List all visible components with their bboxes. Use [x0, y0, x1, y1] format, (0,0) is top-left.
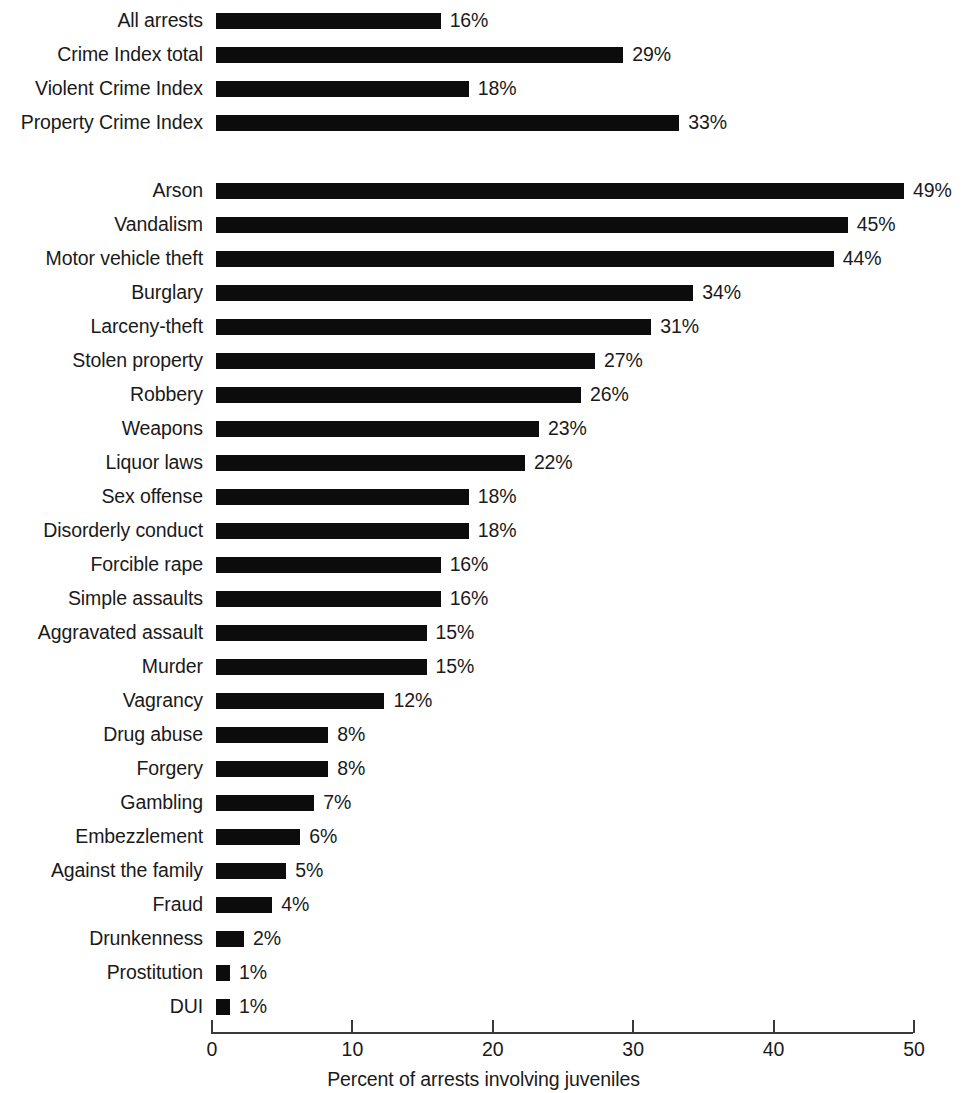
bar-row: Weapons23%: [0, 417, 967, 451]
bar-row: Crime Index total29%: [0, 43, 967, 77]
category-label: Simple assaults: [0, 587, 203, 609]
bar: [216, 115, 679, 131]
bar-row: Vandalism45%: [0, 213, 967, 247]
bar-row: Vagrancy12%: [0, 689, 967, 723]
axis-tick-label: 50: [884, 1038, 944, 1060]
axis-tick: [351, 1020, 353, 1033]
bar: [216, 795, 314, 811]
bar-value-label: 2%: [253, 927, 281, 949]
bar-value-label: 45%: [857, 213, 896, 235]
x-axis: 01020304050 Percent of arrests involving…: [0, 1018, 967, 1093]
axis-tick-label: 20: [463, 1038, 523, 1060]
axis-tick: [632, 1020, 634, 1033]
bar: [216, 523, 469, 539]
category-label: Burglary: [0, 281, 203, 303]
category-label: Property Crime Index: [0, 111, 203, 133]
bar-row: Disorderly conduct18%: [0, 519, 967, 553]
category-label: Stolen property: [0, 349, 203, 371]
bar-row: Burglary34%: [0, 281, 967, 315]
bar: [216, 183, 904, 199]
bar-row: Robbery26%: [0, 383, 967, 417]
bar-row: Forcible rape16%: [0, 553, 967, 587]
bar: [216, 931, 244, 947]
category-label: Embezzlement: [0, 825, 203, 847]
category-label: Disorderly conduct: [0, 519, 203, 541]
bar-value-label: 6%: [309, 825, 337, 847]
category-label: Murder: [0, 655, 203, 677]
axis-tick-label: 10: [322, 1038, 382, 1060]
bar-value-label: 44%: [843, 247, 882, 269]
category-label: Gambling: [0, 791, 203, 813]
bar-row: Violent Crime Index18%: [0, 77, 967, 111]
category-label: Larceny-theft: [0, 315, 203, 337]
bar: [216, 999, 230, 1015]
bar-value-label: 5%: [295, 859, 323, 881]
bar-row: Against the family5%: [0, 859, 967, 893]
axis-tick-label: 0: [182, 1038, 242, 1060]
bar: [216, 625, 427, 641]
bar: [216, 863, 286, 879]
category-label: Sex offense: [0, 485, 203, 507]
bar-row: Motor vehicle theft44%: [0, 247, 967, 281]
bar: [216, 217, 848, 233]
category-label: Crime Index total: [0, 43, 203, 65]
bar-value-label: 15%: [436, 655, 475, 677]
bar-value-label: 18%: [478, 77, 517, 99]
bar-value-label: 1%: [239, 961, 267, 983]
bar-row: Gambling7%: [0, 791, 967, 825]
bar: [216, 251, 834, 267]
bar: [216, 693, 384, 709]
category-label: Vagrancy: [0, 689, 203, 711]
bar-row: Embezzlement6%: [0, 825, 967, 859]
category-label: Motor vehicle theft: [0, 247, 203, 269]
bar: [216, 761, 328, 777]
axis-tick: [913, 1020, 915, 1033]
bar-value-label: 22%: [534, 451, 573, 473]
axis-tick: [492, 1020, 494, 1033]
bar-value-label: 23%: [548, 417, 587, 439]
bar: [216, 421, 539, 437]
bar-value-label: 16%: [450, 553, 489, 575]
bar-row: Sex offense18%: [0, 485, 967, 519]
bar: [216, 13, 441, 29]
category-label: DUI: [0, 995, 203, 1017]
bar-value-label: 26%: [590, 383, 629, 405]
bar-value-label: 18%: [478, 519, 517, 541]
bar: [216, 965, 230, 981]
bar-row: Prostitution1%: [0, 961, 967, 995]
bar-value-label: 4%: [281, 893, 309, 915]
category-label: Violent Crime Index: [0, 77, 203, 99]
axis-tick: [211, 1020, 213, 1033]
bar-row: Fraud4%: [0, 893, 967, 927]
category-label: Fraud: [0, 893, 203, 915]
category-label: Weapons: [0, 417, 203, 439]
bar-value-label: 8%: [337, 757, 365, 779]
bar-value-label: 8%: [337, 723, 365, 745]
bar-row: Stolen property27%: [0, 349, 967, 383]
bar: [216, 387, 581, 403]
category-label: Forcible rape: [0, 553, 203, 575]
category-label: Drug abuse: [0, 723, 203, 745]
category-label: Prostitution: [0, 961, 203, 983]
axis-tick-label: 30: [603, 1038, 663, 1060]
bar-row: Forgery8%: [0, 757, 967, 791]
bar-value-label: 33%: [688, 111, 727, 133]
bar-row: Liquor laws22%: [0, 451, 967, 485]
bar-value-label: 16%: [450, 587, 489, 609]
bar-row: Drug abuse8%: [0, 723, 967, 757]
bar-value-label: 7%: [323, 791, 351, 813]
bar-value-label: 34%: [702, 281, 741, 303]
bar: [216, 897, 272, 913]
bar-row: Aggravated assault15%: [0, 621, 967, 655]
bar-value-label: 27%: [604, 349, 643, 371]
category-label: Against the family: [0, 859, 203, 881]
bar-row: Property Crime Index33%: [0, 111, 967, 145]
category-label: All arrests: [0, 9, 203, 31]
bar: [216, 829, 300, 845]
bar: [216, 659, 427, 675]
bar: [216, 557, 441, 573]
x-axis-title: Percent of arrests involving juveniles: [0, 1068, 967, 1090]
bar-row: Simple assaults16%: [0, 587, 967, 621]
bar: [216, 47, 623, 63]
axis-tick: [773, 1020, 775, 1033]
